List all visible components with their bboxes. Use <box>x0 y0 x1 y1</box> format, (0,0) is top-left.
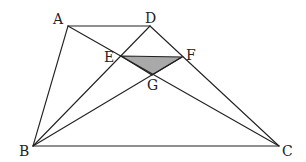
label-g: G <box>147 77 158 93</box>
shaded-triangle-efg <box>121 56 182 75</box>
label-c: C <box>282 143 293 159</box>
segment-ac <box>68 26 279 146</box>
trapezoid-diagram: A D B C E F G <box>0 0 306 162</box>
label-f: F <box>186 47 196 63</box>
geometry-figure: A D B C E F G <box>0 0 306 162</box>
label-d: D <box>145 10 156 26</box>
label-e: E <box>104 49 114 65</box>
label-a: A <box>52 11 64 27</box>
segment-dc <box>150 26 279 146</box>
label-b: B <box>19 143 29 159</box>
